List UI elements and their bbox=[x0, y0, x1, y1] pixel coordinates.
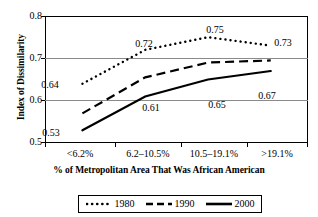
x-tick-label-3: >19.1% bbox=[261, 148, 292, 159]
legend-label-2000: 2000 bbox=[235, 199, 255, 209]
legend-item-2000: 2000 bbox=[206, 199, 255, 209]
legend-item-1990: 1990 bbox=[146, 199, 195, 209]
y-tick-label-0.6: 0.6 bbox=[16, 95, 42, 105]
data-label-2000-cat0: 0.53 bbox=[42, 128, 60, 138]
y-axis-tick-labels: 0.8 0.7 0.6 0.5 bbox=[12, 0, 42, 217]
legend-item-1980: 1980 bbox=[86, 199, 135, 209]
data-label-1980-cat3: 0.73 bbox=[274, 38, 292, 48]
x-tick-mark-3 bbox=[247, 143, 248, 147]
y-tick-label-0.5: 0.5 bbox=[16, 137, 42, 147]
legend-label-1990: 1990 bbox=[175, 199, 195, 209]
y-tick-label-0.8: 0.8 bbox=[16, 11, 42, 21]
x-tick-mark-1 bbox=[115, 143, 116, 147]
legend-swatch-dashed-icon bbox=[146, 201, 172, 207]
series-container bbox=[45, 16, 308, 143]
x-tick-mark-2 bbox=[181, 143, 182, 147]
data-label-1980-cat2: 0.75 bbox=[206, 25, 224, 35]
legend-swatch-solid-icon bbox=[206, 201, 232, 207]
x-tick-label-2: 10.5–19.1% bbox=[190, 148, 238, 159]
legend-label-1980: 1980 bbox=[115, 199, 135, 209]
chart-legend: 1980 1990 2000 bbox=[78, 195, 262, 213]
data-label-2000-cat1: 0.61 bbox=[142, 103, 160, 113]
x-tick-label-0: <6.2% bbox=[67, 148, 93, 159]
x-axis-title: % of Metropolitan Area That Was African … bbox=[0, 165, 318, 175]
data-label-1980-cat0: 0.64 bbox=[41, 80, 59, 90]
plot-area: 0.64 0.72 0.75 0.73 0.53 0.61 0.65 0.67 bbox=[45, 16, 308, 143]
series-line-2000 bbox=[82, 71, 270, 130]
x-tick-mark-0 bbox=[45, 143, 46, 147]
chart-figure: Index of Dissimilarity 0.8 0.7 0.6 0.5 0… bbox=[0, 0, 318, 217]
y-tick-label-0.7: 0.7 bbox=[16, 53, 42, 63]
x-tick-mark-4 bbox=[307, 143, 308, 147]
legend-swatch-dotted-icon bbox=[86, 201, 112, 207]
data-label-2000-cat2: 0.65 bbox=[208, 100, 226, 110]
data-label-2000-cat3: 0.67 bbox=[258, 91, 276, 101]
x-tick-label-1: 6.2–10.5% bbox=[126, 148, 169, 159]
x-axis-tick-labels: <6.2% 6.2–10.5% 10.5–19.1% >19.1% bbox=[45, 148, 308, 162]
data-label-1980-cat1: 0.72 bbox=[135, 39, 153, 49]
